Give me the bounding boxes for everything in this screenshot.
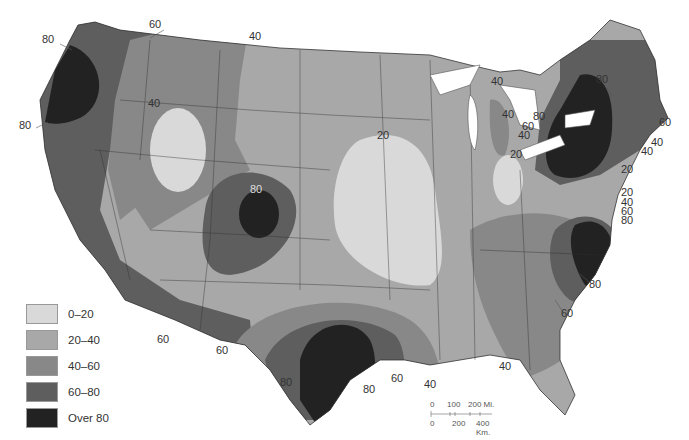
isoline-label: 80 <box>19 120 31 131</box>
isoline-label: 20 <box>510 149 522 160</box>
scale-tick-label: 0 <box>430 419 434 428</box>
legend-item-20-40: 20–40 <box>26 327 109 353</box>
isoline-label: 20 <box>621 164 633 175</box>
scale-tick-label: 200 Mi. <box>468 400 494 409</box>
isoline-label: 40 <box>249 31 261 42</box>
isoline-label: 80 <box>363 384 375 395</box>
legend-item-60-80: 60–80 <box>26 379 109 405</box>
isoline-label: 40 <box>148 98 160 109</box>
scale-tick-label: 400 Km. <box>476 419 500 437</box>
legend-label: 40–60 <box>68 360 100 372</box>
scale-ruler <box>430 411 500 417</box>
isoline-label: 80 <box>596 74 608 85</box>
isoline-label: 40 <box>499 361 511 372</box>
isoline-label: 80 <box>621 215 633 226</box>
isoline-label: 60 <box>157 334 169 345</box>
scale-tick-label: 100 <box>447 400 460 409</box>
legend-swatch <box>26 408 58 428</box>
scale-bar: 0 100 200 Mi. 0 200 400 Km. <box>430 400 500 429</box>
isoline-label: 80 <box>533 111 545 122</box>
isoline-label: 40 <box>491 76 503 87</box>
legend-item-over-80: Over 80 <box>26 405 109 431</box>
legend-label: 0–20 <box>68 308 94 320</box>
scale-tick-label: 0 <box>430 400 434 409</box>
isoline-label: 40 <box>502 109 514 120</box>
legend-swatch <box>26 330 58 350</box>
legend-swatch <box>26 304 58 324</box>
legend: 0–20 20–40 40–60 60–80 Over 80 <box>26 301 109 431</box>
isoline-label: 60 <box>561 308 573 319</box>
legend-swatch <box>26 356 58 376</box>
isoline-label: 40 <box>424 379 436 390</box>
isoline-label: 80 <box>42 34 54 45</box>
isoline-label: 60 <box>149 19 161 30</box>
scale-miles: 0 100 200 Mi. <box>430 400 500 410</box>
legend-swatch <box>26 382 58 402</box>
scale-tick-label: 200 <box>452 419 465 428</box>
legend-label: Over 80 <box>68 412 109 424</box>
isoline-label: 60 <box>391 373 403 384</box>
legend-label: 20–40 <box>68 334 100 346</box>
isoline-label: 40 <box>641 146 653 157</box>
isoline-label: 40 <box>518 130 530 141</box>
scale-km: 0 200 400 Km. <box>430 419 500 429</box>
isoline-label: 80 <box>250 184 262 195</box>
isoline-label: 60 <box>216 345 228 356</box>
legend-label: 60–80 <box>68 386 100 398</box>
isoline-label: 80 <box>280 377 292 388</box>
isoline-label: 20 <box>377 130 389 141</box>
isoline-label: 60 <box>659 117 671 128</box>
legend-item-0-20: 0–20 <box>26 301 109 327</box>
legend-item-40-60: 40–60 <box>26 353 109 379</box>
isoline-label: 80 <box>589 279 601 290</box>
